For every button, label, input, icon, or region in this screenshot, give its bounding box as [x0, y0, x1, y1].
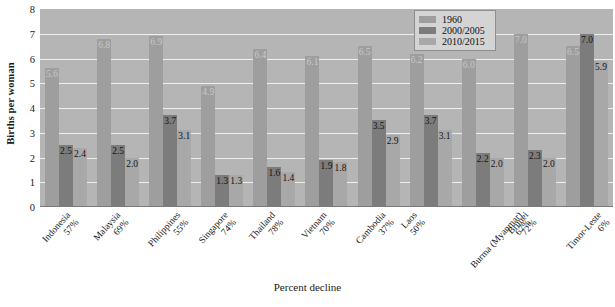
bar-value-label: 7.0: [581, 35, 593, 46]
y-axis-tick-label: 4: [30, 103, 35, 114]
legend-label: 1960: [442, 14, 462, 25]
y-axis-tick-label: 2: [30, 152, 35, 163]
bar[interactable]: 2.2: [476, 153, 490, 207]
bar[interactable]: 6.1: [305, 56, 319, 207]
bar[interactable]: 1.3: [229, 175, 243, 207]
bar-group: 6.53.52.9: [353, 9, 405, 207]
bar-value-label: 6.9: [150, 37, 162, 48]
plot-area: 5.62.52.46.82.52.06.93.73.14.91.31.36.41…: [40, 9, 613, 207]
x-axis-category-label: Laos50%: [399, 210, 427, 238]
bar[interactable]: 4.9: [201, 86, 215, 207]
bar-chart: Births per woman 012345678 5.62.52.46.82…: [0, 0, 615, 307]
bar[interactable]: 2.0: [542, 158, 556, 208]
bar[interactable]: 3.5: [372, 120, 386, 207]
bar[interactable]: 7.0: [514, 34, 528, 207]
legend-item[interactable]: 2010/2015: [419, 36, 485, 47]
bar[interactable]: 5.9: [594, 61, 608, 207]
legend-label: 2010/2015: [442, 36, 485, 47]
legend-label: 2000/2005: [442, 25, 485, 36]
bar-value-label: 3.1: [439, 131, 451, 142]
bar[interactable]: 2.3: [528, 150, 542, 207]
bar-group: 6.82.52.0: [92, 9, 144, 207]
bar-value-label: 7.0: [515, 35, 527, 46]
bar[interactable]: 6.5: [566, 46, 580, 207]
bar-value-label: 1.6: [268, 168, 280, 179]
bar-value-label: 1.8: [335, 163, 347, 174]
bar[interactable]: 2.9: [386, 135, 400, 207]
bar[interactable]: 2.0: [490, 158, 504, 208]
x-axis-category-label: Philippines55%: [146, 210, 190, 256]
x-axis-title: Percent decline: [0, 281, 615, 293]
bar-value-label: 2.5: [60, 146, 72, 157]
legend-color-swatch: [419, 38, 436, 45]
x-axis-category-label: Singapore74%: [197, 210, 238, 253]
bar[interactable]: 3.7: [424, 115, 438, 207]
x-axis-category-label: Thailand78%: [248, 210, 286, 249]
bar-group: 6.93.73.1: [144, 9, 196, 207]
y-axis-tick-label: 0: [30, 202, 35, 213]
bar[interactable]: 2.0: [125, 158, 139, 208]
bar[interactable]: 1.4: [281, 172, 295, 207]
legend-item[interactable]: 1960: [419, 14, 485, 25]
bar[interactable]: 6.4: [253, 49, 267, 207]
y-axis-tick-label: 3: [30, 127, 35, 138]
bar-value-label: 6.8: [98, 40, 110, 51]
bar-value-label: 1.3: [216, 176, 228, 187]
bar[interactable]: 2.5: [111, 145, 125, 207]
x-axis-category-label: Malaysia69%: [92, 210, 131, 250]
bar-value-label: 6.4: [254, 50, 266, 61]
bar-group: 4.91.31.3: [196, 9, 248, 207]
x-axis-category-labels: Indonesia57%Malaysia69%Philippines55%Sin…: [40, 208, 613, 278]
bar[interactable]: 2.4: [73, 148, 87, 207]
bar-value-label: 2.2: [477, 154, 489, 165]
bar-value-label: 2.3: [529, 151, 541, 162]
bar[interactable]: 3.1: [177, 130, 191, 207]
bar[interactable]: 2.5: [59, 145, 73, 207]
bar[interactable]: 6.8: [97, 39, 111, 207]
y-axis-tick-label: 7: [30, 28, 35, 39]
bar-group: 6.57.05.9: [561, 9, 613, 207]
bar-value-label: 2.5: [112, 146, 124, 157]
bar-value-label: 5.9: [595, 62, 607, 73]
bar[interactable]: 6.0: [462, 59, 476, 208]
bar-value-label: 2.0: [126, 159, 138, 170]
bar[interactable]: 3.1: [438, 130, 452, 207]
legend-color-swatch: [419, 16, 436, 23]
bar-value-label: 2.9: [387, 136, 399, 147]
bar[interactable]: 3.7: [163, 115, 177, 207]
x-axis-category-label: Timor-Leste6%: [564, 210, 611, 259]
bar-value-label: 6.1: [307, 57, 319, 68]
y-axis-tick-label: 6: [30, 53, 35, 64]
legend-item[interactable]: 2000/2005: [419, 25, 485, 36]
bar-value-label: 3.1: [178, 131, 190, 142]
bar[interactable]: 1.3: [215, 175, 229, 207]
bar[interactable]: 7.0: [580, 34, 594, 207]
bar-group: 6.41.61.4: [248, 9, 300, 207]
bar-value-label: 1.9: [321, 161, 333, 172]
bar-value-label: 6.5: [567, 47, 579, 58]
bar-value-label: 1.4: [282, 173, 294, 184]
bar[interactable]: 6.5: [358, 46, 372, 207]
bar[interactable]: 1.6: [267, 167, 281, 207]
bar-value-label: 3.5: [373, 121, 385, 132]
bar-value-label: 3.7: [425, 116, 437, 127]
bar[interactable]: 6.2: [410, 54, 424, 207]
y-axis-tick-label: 5: [30, 78, 35, 89]
y-axis-title: Births per woman: [2, 0, 18, 207]
bar-value-label: 6.0: [463, 60, 475, 71]
bar-value-label: 5.6: [46, 69, 58, 80]
y-axis-tick-label: 8: [30, 4, 35, 15]
bar[interactable]: 5.6: [45, 68, 59, 207]
legend-color-swatch: [419, 27, 436, 34]
bar-value-label: 2.0: [543, 159, 555, 170]
bar[interactable]: 6.9: [149, 36, 163, 207]
y-axis-tick-label: 1: [30, 177, 35, 188]
bar-group: 5.62.52.4: [40, 9, 92, 207]
x-axis-category-label: Cambodia37%: [354, 210, 396, 253]
bar[interactable]: 1.8: [333, 162, 347, 207]
bars-layer: 5.62.52.46.82.52.06.93.73.14.91.31.36.41…: [40, 9, 613, 207]
bar[interactable]: 1.9: [319, 160, 333, 207]
x-axis-category-label: Vietnam70%: [299, 210, 336, 248]
bar-value-label: 3.7: [164, 116, 176, 127]
bar-value-label: 2.4: [74, 149, 86, 160]
